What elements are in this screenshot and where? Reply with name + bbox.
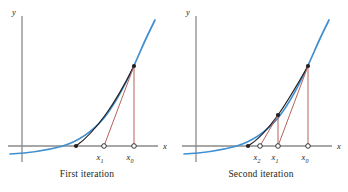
marker-x0-axis [132, 144, 137, 149]
y-axis-label: y [185, 7, 190, 17]
tick-label-x0: x0 [126, 152, 134, 164]
marker-root-point [74, 144, 78, 148]
marker-x0-axis [306, 144, 311, 149]
tick-label-x0: x0 [301, 152, 309, 164]
marker-x1-axis [102, 144, 107, 149]
marker-root-point [246, 144, 250, 148]
marker-f-x0 [306, 64, 310, 68]
chord-segment [76, 66, 134, 146]
secant-line-x0-x1 [104, 66, 134, 146]
marker-f-x1 [276, 113, 280, 117]
marker-x1-axis [276, 144, 281, 149]
y-axis-label: y [11, 7, 16, 17]
function-curve [10, 20, 155, 154]
marker-x2-axis [258, 144, 263, 149]
panel-first-iteration: y x x1 x0 [0, 0, 174, 192]
secant-method-figure: y x x1 x0 [0, 0, 348, 192]
marker-f-x0 [132, 64, 136, 68]
panel-second-iteration: y x [174, 0, 348, 192]
secant-line-x0-x1 [278, 66, 308, 146]
x-axis-label: x [336, 141, 341, 151]
caption-second-iteration: Second iteration [174, 168, 348, 180]
tick-label-x1: x1 [271, 152, 279, 164]
secant-line-x1-x2 [260, 115, 278, 146]
function-curve [184, 20, 329, 154]
plot-first-iteration: y x x1 x0 [0, 0, 174, 168]
x-axis-label: x [162, 141, 167, 151]
tick-label-x2: x2 [253, 152, 261, 164]
plot-second-iteration: y x [174, 0, 348, 168]
tick-label-x1: x1 [96, 152, 104, 164]
caption-first-iteration: First iteration [0, 168, 174, 180]
